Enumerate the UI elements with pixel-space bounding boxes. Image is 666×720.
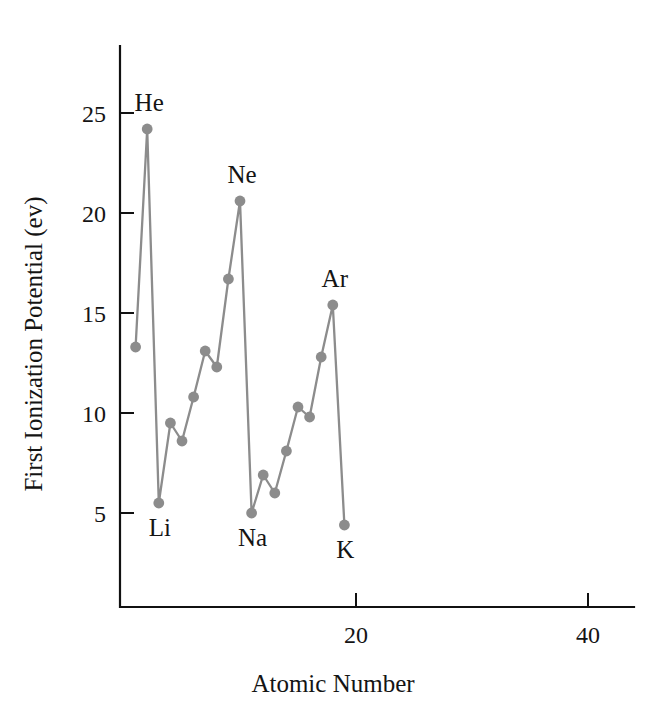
point-label-he: He — [135, 89, 164, 116]
data-point-marker — [293, 402, 304, 413]
point-label-ne: Ne — [227, 161, 256, 188]
y-tick-label: 10 — [82, 401, 106, 427]
data-point-marker — [316, 352, 327, 363]
data-point-marker — [130, 342, 141, 353]
data-point-marker — [258, 470, 269, 481]
data-point-marker — [304, 412, 315, 423]
point-label-ar: Ar — [322, 265, 349, 292]
data-point-marker — [281, 446, 292, 457]
point-label-na: Na — [238, 524, 267, 551]
data-point-marker — [142, 124, 153, 135]
y-tick-label: 5 — [94, 501, 106, 527]
data-point-marker — [165, 418, 176, 429]
data-point-marker — [153, 498, 164, 509]
data-point-marker — [200, 346, 211, 357]
data-point-marker — [327, 300, 338, 311]
y-tick-label: 25 — [82, 101, 106, 127]
data-point-marker — [235, 196, 246, 207]
data-point-marker — [211, 362, 222, 373]
y-tick-label: 15 — [82, 301, 106, 327]
chart-container: 510152025 2040 HeNeArLiNaK Atomic Number… — [0, 0, 666, 720]
data-point-marker — [223, 274, 234, 285]
data-point-marker — [269, 488, 280, 499]
y-axis-title: First Ionization Potential (ev) — [20, 196, 48, 491]
x-axis-title: Atomic Number — [251, 670, 415, 697]
point-label-li: Li — [149, 514, 171, 541]
x-tick-label: 20 — [344, 622, 368, 648]
data-point-marker — [246, 508, 257, 519]
data-point-marker — [177, 436, 188, 447]
y-tick-label: 20 — [82, 201, 106, 227]
data-point-marker — [339, 520, 350, 531]
ionization-potential-line-chart: 510152025 2040 HeNeArLiNaK Atomic Number… — [0, 0, 666, 720]
x-tick-label: 40 — [576, 622, 600, 648]
data-point-marker — [188, 392, 199, 403]
point-label-k: K — [336, 536, 354, 563]
